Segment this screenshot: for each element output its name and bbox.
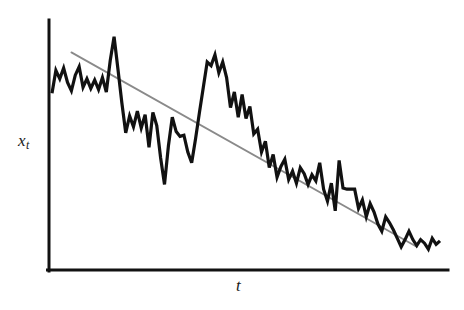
data-group: [52, 37, 440, 249]
chart-plot-area: [0, 0, 464, 310]
y-axis-label: xt: [18, 132, 29, 152]
y-axis-label-subscript: t: [26, 138, 30, 152]
figure-canvas: xt t: [0, 0, 464, 310]
y-axis-label-main: x: [18, 131, 26, 150]
x-axis-label: t: [236, 277, 241, 294]
series-line-xt: [52, 37, 440, 249]
axes-group: [48, 20, 449, 271]
